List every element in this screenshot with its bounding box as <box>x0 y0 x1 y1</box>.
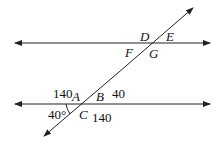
label-B: B <box>96 90 104 103</box>
label-G: G <box>149 47 158 60</box>
label-A: A <box>72 90 80 103</box>
label-C: C <box>79 108 88 121</box>
label-F: F <box>125 46 133 59</box>
label-40: 40 <box>112 87 125 100</box>
label-E: E <box>166 30 174 43</box>
label-140-top: 140 <box>53 87 73 100</box>
label-D: D <box>140 30 149 43</box>
angle-arc <box>66 104 70 114</box>
label-40-degrees: 40° <box>48 108 66 121</box>
label-140-bottom: 140 <box>92 111 112 124</box>
transversal-line <box>119 8 193 72</box>
